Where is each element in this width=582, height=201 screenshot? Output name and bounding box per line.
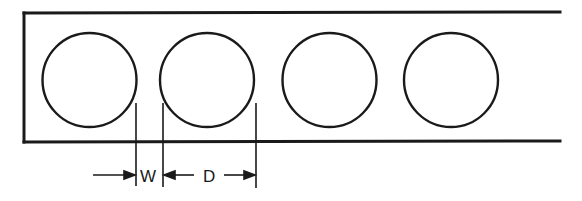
hole-1	[43, 33, 137, 127]
strip-bottom-edge	[24, 141, 560, 142]
hole-3	[283, 33, 377, 127]
hole-4	[404, 33, 498, 127]
strip-top-edge	[24, 12, 560, 13]
web-width-label: W	[140, 167, 156, 186]
diameter-label: D	[203, 167, 215, 186]
d-right-arrowhead-icon	[244, 171, 255, 179]
strip-outline	[24, 12, 560, 142]
holes	[43, 33, 499, 127]
d-left-arrowhead-icon	[164, 171, 175, 179]
w-arrowhead-icon	[124, 171, 135, 179]
dimension-arrows	[93, 171, 255, 179]
perforated-strip-diagram: W D	[0, 0, 582, 201]
hole-2	[160, 33, 254, 127]
